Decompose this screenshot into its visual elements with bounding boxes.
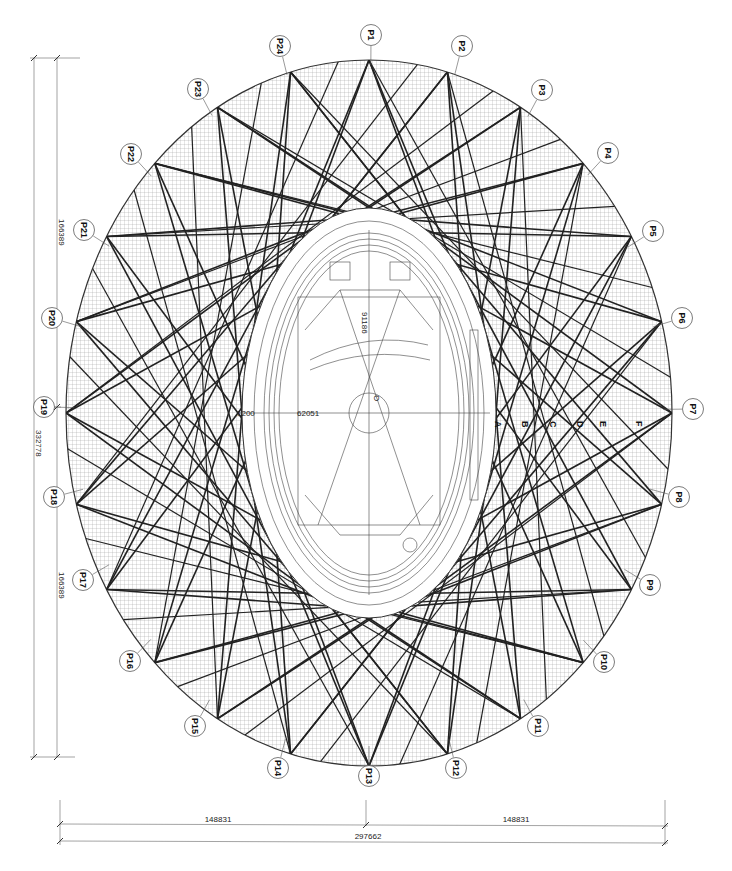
svg-text:P15: P15 xyxy=(190,718,200,734)
svg-text:P23: P23 xyxy=(193,81,203,97)
callout-p24: P24 xyxy=(270,36,291,76)
svg-text:P7: P7 xyxy=(688,403,698,414)
callout-p4: P4 xyxy=(588,143,619,176)
svg-text:P18: P18 xyxy=(49,489,59,505)
svg-text:P21: P21 xyxy=(79,222,89,238)
dim-vertical-top-half: 166389 xyxy=(57,219,66,246)
field-width-label: 62051 xyxy=(297,409,320,418)
dim-horizontal-left-half: 148831 xyxy=(205,815,232,824)
svg-text:P13: P13 xyxy=(364,768,374,784)
section-marker-a: A xyxy=(493,421,503,428)
svg-text:P11: P11 xyxy=(533,718,543,734)
callout-p22: P22 xyxy=(121,144,152,177)
svg-text:P24: P24 xyxy=(275,38,285,54)
section-marker-d: D xyxy=(575,421,585,428)
svg-text:P2: P2 xyxy=(457,40,467,51)
svg-text:P10: P10 xyxy=(599,654,609,670)
dim-vertical-total: 332778 xyxy=(34,430,43,457)
svg-text:P5: P5 xyxy=(648,225,658,236)
svg-text:P8: P8 xyxy=(674,491,684,502)
section-marker-f: F xyxy=(634,421,644,427)
section-marker-b: B xyxy=(520,421,530,428)
svg-text:P9: P9 xyxy=(645,579,655,590)
svg-text:P22: P22 xyxy=(126,146,136,162)
svg-text:P4: P4 xyxy=(603,147,613,158)
svg-text:P1: P1 xyxy=(366,29,376,40)
svg-text:P14: P14 xyxy=(273,760,283,776)
dim-horizontal-total: 297662 xyxy=(355,832,382,841)
field-length-label: 91186 xyxy=(360,312,369,334)
center-label: O xyxy=(372,395,381,401)
svg-text:P12: P12 xyxy=(451,760,461,776)
callout-p2: P2 xyxy=(452,36,473,76)
svg-text:P16: P16 xyxy=(125,653,135,669)
section-marker-c: C xyxy=(548,421,558,428)
callout-p23: P23 xyxy=(188,79,213,116)
section-marker-e: E xyxy=(598,421,608,427)
svg-text:P17: P17 xyxy=(78,572,88,588)
stadium-plan-drawing: 62051 1200 91186 O A B C D E F 166389 16… xyxy=(0,0,732,871)
callout-p16: P16 xyxy=(120,639,151,671)
svg-text:P3: P3 xyxy=(537,84,547,95)
callout-p1: P1 xyxy=(361,25,382,65)
dim-vertical-bottom-half: 166389 xyxy=(57,572,66,599)
svg-text:P20: P20 xyxy=(47,310,57,326)
dim-horizontal-right-half: 148831 xyxy=(503,815,530,824)
horizontal-dimensions: 148831 148831 297662 xyxy=(57,800,668,846)
callout-p3: P3 xyxy=(528,80,553,117)
field-offset-label: 1200 xyxy=(237,409,255,418)
svg-text:P19: P19 xyxy=(39,399,49,415)
svg-text:P6: P6 xyxy=(677,312,687,323)
